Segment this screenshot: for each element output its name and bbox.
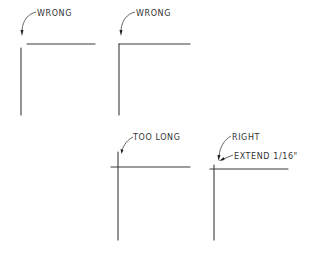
arrowhead-icon	[219, 157, 225, 161]
arrowhead-icon	[218, 155, 221, 161]
panel-too-long: TOO LONG	[111, 133, 190, 240]
label-extend: EXTEND 1/16"	[234, 152, 298, 161]
panel-right: RIGHT EXTEND 1/16"	[210, 133, 298, 240]
arrowhead-icon	[120, 30, 123, 36]
label-wrong-2: WRONG	[136, 9, 171, 18]
leader-arrow	[122, 137, 133, 150]
panel-wrong-meet: WRONG	[119, 9, 190, 115]
leader-arrow	[219, 136, 231, 156]
leader-arrow	[22, 12, 36, 30]
corner-diagram: WRONG WRONG TOO LONG RIGHT EXTEND 1/16"	[0, 0, 320, 255]
panel-wrong-gap: WRONG	[21, 9, 96, 115]
label-too-long: TOO LONG	[132, 133, 180, 142]
label-wrong-1: WRONG	[37, 9, 72, 18]
arrowhead-icon	[121, 149, 124, 154]
label-right: RIGHT	[232, 133, 260, 142]
leader-arrow	[121, 12, 135, 30]
arrowhead-icon	[21, 30, 24, 36]
